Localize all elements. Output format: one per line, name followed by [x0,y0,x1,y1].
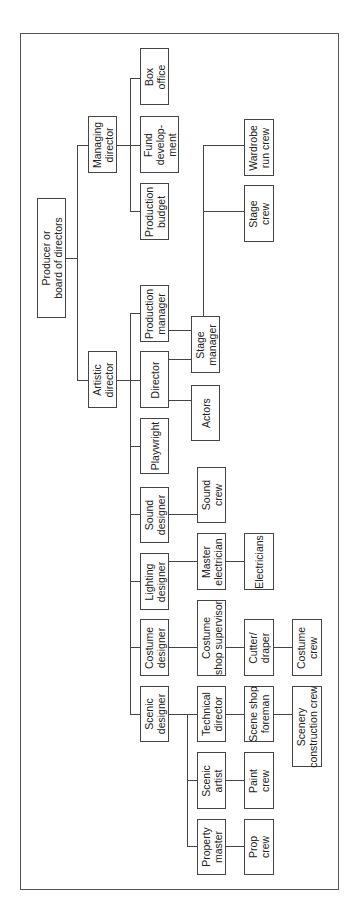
node-label: Producer or board of directors [40,217,64,299]
node-label: Scene shop foreman [247,686,271,741]
node-label: Director [149,361,161,398]
node-label: Sound crew [200,480,224,510]
connector-line [130,211,140,212]
node-sound-designer: Sound designer [140,487,169,543]
node-paint-crew: Paint crew [244,752,274,809]
connector-line [117,380,140,381]
node-box-office: Box office [140,48,169,105]
node-label: Production manager [143,288,167,338]
connector-line [77,380,88,381]
node-label: Electricians [253,535,265,589]
org-chart: Producer or board of directorsManaging d… [0,0,353,921]
connector-line [274,714,292,715]
node-costume-crew: Costume crew [292,619,322,676]
node-director: Director [140,351,169,408]
node-sound-crew: Sound crew [197,467,226,523]
connector-line [130,78,140,79]
connector-line [169,714,187,715]
node-artistic-director: Artistic director [88,351,117,408]
node-cutter-draper: Cutter/ draper [244,619,274,676]
connector-line [169,514,197,515]
node-label: Actors [200,398,212,428]
node-production-manager: Production manager [140,285,169,342]
node-label: Property master [200,827,224,867]
node-label: Scenery construction crew [295,686,319,768]
node-label: Costume shop supervisor [200,601,224,675]
connector-line [130,446,140,447]
node-prop-crew: Prop crew [244,819,274,875]
connector-line [169,561,197,562]
node-label: Prop crew [247,836,271,858]
connector-line [187,780,197,781]
node-scenic-designer: Scenic designer [140,686,169,742]
node-label: Production budget [143,186,167,236]
node-label: Playwright [149,422,161,470]
connector-line [203,211,244,212]
node-label: Box office [143,64,167,89]
node-managing-director: Managing director [88,116,117,173]
node-master-electrician: Master electrician [197,533,226,590]
node-stage-manager: Stage manager [191,316,220,373]
node-actors: Actors [191,385,220,441]
node-scenic-artist: Scenic artist [197,752,226,809]
node-scenery-construction-crew: Scenery construction crew [292,686,322,767]
connector-line [117,145,140,146]
node-technical-director: Technical director [197,686,226,742]
connector-line [130,313,140,314]
node-label: Stage crew [247,200,271,227]
connector-line [77,145,88,146]
node-producer: Producer or board of directors [37,198,66,318]
connector-line [187,714,197,715]
node-playwright: Playwright [140,418,169,474]
connector-line [226,846,244,847]
node-label: Fund develop- ment [142,124,178,164]
connector-line [77,145,78,380]
node-costume-designer: Costume designer [140,619,169,676]
node-label: Wardrobe run crew [247,125,271,171]
connector-line [169,330,191,331]
connector-line [130,78,131,212]
connector-line [169,647,197,648]
node-electricians: Electricians [244,533,274,590]
node-label: Lighting designer [143,561,167,601]
node-label: Artistic director [91,362,115,397]
node-label: Scenic designer [143,694,167,734]
connector-line [130,581,140,582]
node-stage-crew: Stage crew [244,185,274,242]
node-fund-development: Fund develop- ment [140,116,179,173]
connector-line [130,514,140,515]
connector-line [203,145,204,316]
connector-line [130,714,140,715]
connector-line [187,846,197,847]
node-label: Managing director [91,121,115,167]
node-property-master: Property master [197,819,226,875]
node-wardrobe-run-crew: Wardrobe run crew [244,119,274,176]
node-lighting-designer: Lighting designer [140,553,169,610]
connector-line [169,400,191,401]
node-costume-shop-supervisor: Costume shop supervisor [197,600,226,676]
connector-line [274,647,292,648]
connector-line [226,714,244,715]
node-label: Costume crew [295,626,319,668]
node-label: Cutter/ draper [247,632,271,664]
node-label: Technical director [200,692,224,736]
node-scene-shop-foreman: Scene shop foreman [244,686,274,742]
node-label: Scenic artist [200,765,224,797]
connector-line [226,561,244,562]
node-label: Master electrician [200,538,224,585]
connector-line [169,359,191,360]
node-label: Paint crew [247,769,271,793]
connector-line [130,647,140,648]
connector-line [65,258,77,259]
node-label: Sound designer [143,495,167,535]
node-production-budget: Production budget [140,183,169,240]
node-label: Costume designer [143,626,167,668]
connector-line [203,145,244,146]
connector-line [226,647,244,648]
node-label: Stage manager [194,324,218,365]
connector-line [226,780,244,781]
